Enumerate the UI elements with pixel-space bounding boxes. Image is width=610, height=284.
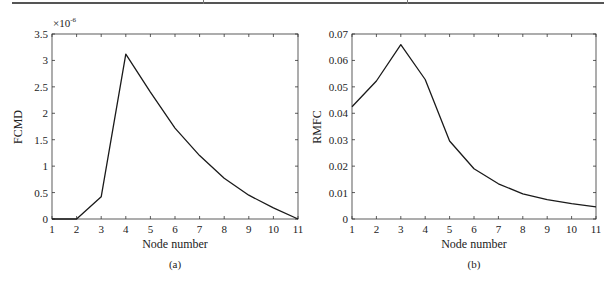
x-tick-label: 10 bbox=[566, 223, 578, 235]
x-tick-label: 9 bbox=[246, 223, 252, 235]
plot-area-a: 123456789101100.511.522.533.5 bbox=[34, 28, 303, 235]
x-tick-label: 3 bbox=[98, 223, 104, 235]
y-multiplier-base: ×10 bbox=[53, 17, 71, 29]
caption-a: (a) bbox=[169, 258, 182, 271]
y-axis-label-b: RMFC bbox=[310, 110, 324, 143]
x-tick-label: 4 bbox=[123, 223, 129, 235]
y-tick-label: 0.01 bbox=[329, 187, 348, 199]
y-tick-label: 0.5 bbox=[34, 187, 48, 199]
plot-area-b: 123456789101100.010.020.030.040.050.060.… bbox=[329, 28, 602, 235]
y-multiplier-exponent: -6 bbox=[70, 16, 76, 24]
x-tick-label: 6 bbox=[172, 223, 178, 235]
x-tick-label: 2 bbox=[74, 223, 80, 235]
y-axis-label-a: FCMD bbox=[11, 110, 25, 144]
y-tick-label: 3 bbox=[43, 54, 49, 66]
x-tick-label: 7 bbox=[197, 223, 203, 235]
x-tick-label: 1 bbox=[49, 223, 55, 235]
axes-frame bbox=[52, 34, 298, 219]
x-tick-label: 10 bbox=[268, 223, 280, 235]
y-tick-label: 0.04 bbox=[329, 107, 349, 119]
chart-panel-b: 123456789101100.010.020.030.040.050.060.… bbox=[310, 28, 601, 271]
y-tick-label: 0.06 bbox=[329, 54, 349, 66]
x-axis-label-a: Node number bbox=[142, 237, 208, 251]
y-tick-label: 2 bbox=[43, 107, 49, 119]
x-axis-label-b: Node number bbox=[441, 237, 507, 251]
y-tick-label: 0 bbox=[343, 213, 349, 225]
data-series-line bbox=[352, 45, 596, 207]
figure-canvas: 123456789101100.511.522.533.5 Node numbe… bbox=[0, 0, 610, 284]
x-tick-label: 8 bbox=[520, 223, 526, 235]
x-tick-label: 2 bbox=[374, 223, 380, 235]
data-series-line bbox=[52, 54, 298, 219]
y-multiplier-a: ×10-6 bbox=[53, 16, 77, 29]
y-tick-label: 3.5 bbox=[34, 28, 48, 40]
y-tick-label: 0.05 bbox=[329, 81, 349, 93]
chart-panel-a: 123456789101100.511.522.533.5 Node numbe… bbox=[11, 16, 303, 271]
caption-b: (b) bbox=[468, 258, 481, 271]
y-tick-label: 0.03 bbox=[329, 134, 349, 146]
x-tick-label: 6 bbox=[471, 223, 477, 235]
x-tick-label: 3 bbox=[398, 223, 404, 235]
x-tick-label: 11 bbox=[293, 223, 304, 235]
y-tick-label: 0.02 bbox=[329, 160, 348, 172]
y-tick-label: 1 bbox=[43, 160, 49, 172]
x-tick-label: 4 bbox=[422, 223, 428, 235]
x-tick-label: 5 bbox=[148, 223, 154, 235]
x-tick-label: 11 bbox=[591, 223, 602, 235]
x-tick-label: 1 bbox=[349, 223, 355, 235]
x-tick-label: 9 bbox=[544, 223, 550, 235]
y-tick-label: 2.5 bbox=[34, 81, 48, 93]
x-tick-label: 8 bbox=[221, 223, 227, 235]
x-tick-label: 5 bbox=[447, 223, 453, 235]
y-tick-label: 1.5 bbox=[34, 134, 48, 146]
x-tick-label: 7 bbox=[496, 223, 502, 235]
y-tick-label: 0.07 bbox=[329, 28, 349, 40]
y-tick-label: 0 bbox=[43, 213, 49, 225]
